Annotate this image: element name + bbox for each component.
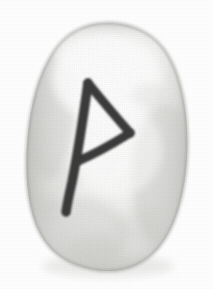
rune-stone-image: Rune stone Thurisaz rune carved on a pal… — [0, 0, 213, 289]
rune-right-vertex — [125, 128, 135, 138]
rune-apex-joint — [83, 79, 93, 89]
rune-base-joint — [73, 156, 83, 166]
stone-illustration — [0, 0, 213, 289]
